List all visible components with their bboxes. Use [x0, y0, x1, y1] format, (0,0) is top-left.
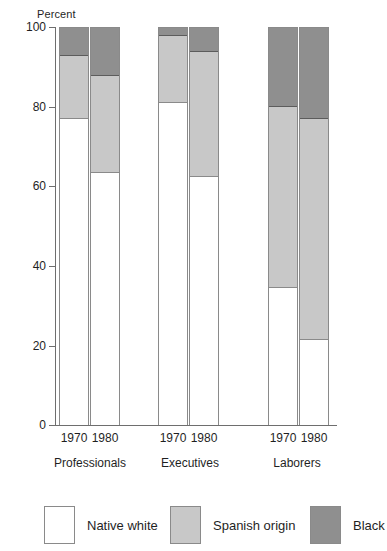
legend-label-spanish-origin: Spanish origin	[213, 518, 295, 533]
segment-black	[159, 28, 187, 36]
plot-area	[56, 27, 331, 425]
legend-swatch-black	[310, 506, 341, 544]
bar-executives-1980[interactable]	[189, 27, 219, 425]
y-tick-label-80: 80	[6, 100, 46, 114]
segment-black	[269, 28, 297, 107]
legend-label-native-white: Native white	[87, 518, 158, 533]
segment-spanish-origin	[159, 36, 187, 103]
segment-black	[60, 28, 88, 56]
legend-item-native-white[interactable]: Native white	[44, 503, 158, 547]
bar-executives-1970[interactable]	[158, 27, 188, 425]
y-axis-title: Percent	[37, 8, 76, 20]
y-tick-label-40: 40	[6, 259, 46, 273]
bar-professionals-1980[interactable]	[90, 27, 120, 425]
y-tick-mark-0	[49, 425, 55, 426]
x-label-professionals-1980: 1980	[84, 431, 126, 445]
segment-native-white	[91, 173, 119, 425]
group-label-executives: Executives	[140, 456, 240, 470]
segment-spanish-origin	[300, 119, 328, 339]
y-tick-mark-60	[49, 186, 55, 187]
y-tick-label-60: 60	[6, 179, 46, 193]
segment-native-white	[190, 177, 218, 425]
bar-laborers-1980[interactable]	[299, 27, 329, 425]
segment-black	[190, 28, 218, 52]
legend-label-black: Black	[353, 518, 385, 533]
y-tick-mark-40	[49, 266, 55, 267]
legend-item-spanish-origin[interactable]: Spanish origin	[170, 503, 295, 547]
group-label-professionals: Professionals	[35, 456, 145, 470]
segment-native-white	[300, 340, 328, 425]
y-tick-label-100: 100	[6, 20, 46, 34]
bar-laborers-1970[interactable]	[268, 27, 298, 425]
segment-native-white	[159, 103, 187, 425]
segment-spanish-origin	[91, 76, 119, 173]
segment-spanish-origin	[269, 107, 297, 288]
y-tick-mark-80	[49, 107, 55, 108]
y-tick-mark-100	[49, 27, 55, 28]
group-label-laborers: Laborers	[245, 456, 349, 470]
y-tick-label-0: 0	[6, 418, 46, 432]
segment-black	[91, 28, 119, 76]
segment-black	[300, 28, 328, 119]
legend-item-black[interactable]: Black	[310, 503, 385, 547]
x-label-executives-1980: 1980	[183, 431, 225, 445]
bar-professionals-1970[interactable]	[59, 27, 89, 425]
x-label-laborers-1980: 1980	[293, 431, 335, 445]
y-tick-label-20: 20	[6, 339, 46, 353]
legend-swatch-native-white	[44, 506, 75, 544]
y-tick-mark-20	[49, 346, 55, 347]
segment-native-white	[60, 119, 88, 425]
segment-native-white	[269, 288, 297, 425]
legend: Native white Spanish origin Black	[0, 503, 387, 547]
x-axis-line	[55, 425, 337, 426]
segment-spanish-origin	[60, 56, 88, 120]
segment-spanish-origin	[190, 52, 218, 177]
stacked-bar-chart: Percent 100 80 60 40 20 0	[0, 0, 387, 551]
legend-swatch-spanish-origin	[170, 506, 201, 544]
